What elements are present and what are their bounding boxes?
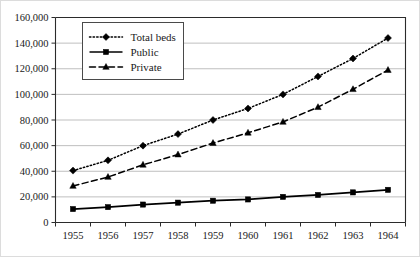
data-point-marker: [350, 190, 355, 195]
x-axis-tick-label: 1962: [308, 230, 329, 241]
data-point-marker: [385, 67, 391, 73]
x-axis-tick-label: 1955: [63, 230, 84, 241]
data-point-marker: [280, 91, 287, 98]
legend-label: Public: [131, 46, 159, 58]
data-point-marker: [385, 187, 390, 192]
data-point-marker: [315, 73, 322, 80]
y-axis-tick-label: 60,000: [20, 140, 49, 151]
data-point-marker: [103, 49, 108, 54]
data-point-marker: [70, 167, 77, 174]
data-point-marker: [245, 105, 252, 112]
data-point-marker: [210, 117, 217, 124]
data-point-marker: [140, 202, 145, 207]
data-point-marker: [140, 142, 147, 149]
y-axis-tick-label: 120,000: [14, 63, 48, 74]
data-point-marker: [210, 198, 215, 203]
y-axis-tick-label: 80,000: [20, 115, 49, 126]
x-axis-tick-label: 1964: [378, 230, 400, 241]
data-point-marker: [175, 151, 181, 157]
data-point-marker: [385, 35, 392, 42]
series-private: [70, 67, 391, 189]
data-point-marker: [70, 206, 75, 211]
x-axis-tick-label: 1956: [98, 230, 119, 241]
y-axis-tick-label: 20,000: [20, 191, 49, 202]
data-point-marker: [175, 131, 182, 138]
y-axis-tick-label: 160,000: [14, 12, 48, 23]
y-axis-tick-label: 140,000: [14, 38, 48, 49]
data-point-marker: [315, 192, 320, 197]
x-axis-tick-label: 1959: [203, 230, 224, 241]
x-axis-tick-label: 1960: [238, 230, 259, 241]
legend-label: Total beds: [131, 31, 176, 43]
data-point-marker: [350, 55, 357, 62]
x-axis-tick-label: 1963: [343, 230, 364, 241]
x-axis-tick-label: 1958: [168, 230, 189, 241]
line-chart: 020,00040,00060,00080,000100,000120,0001…: [0, 0, 420, 257]
y-axis: 020,00040,00060,00080,000100,000120,0001…: [14, 12, 55, 228]
series-public: [70, 187, 390, 211]
x-axis: 1955195619571958195919601961196219631964: [56, 223, 406, 241]
legend-label: Private: [131, 61, 162, 73]
data-point-marker: [245, 197, 250, 202]
chart-legend: Total bedsPublicPrivate: [83, 23, 184, 80]
series-line: [73, 70, 388, 186]
data-point-marker: [280, 194, 285, 199]
x-axis-tick-label: 1957: [133, 230, 154, 241]
chart-container: 020,00040,00060,00080,000100,000120,0001…: [0, 0, 420, 257]
y-axis-tick-label: 40,000: [20, 166, 49, 177]
data-point-marker: [105, 205, 110, 210]
y-axis-tick-label: 100,000: [14, 89, 48, 100]
data-point-marker: [105, 157, 112, 164]
y-axis-tick-label: 0: [43, 217, 48, 228]
data-point-marker: [175, 200, 180, 205]
x-axis-tick-label: 1961: [273, 230, 294, 241]
series-line: [73, 190, 388, 209]
